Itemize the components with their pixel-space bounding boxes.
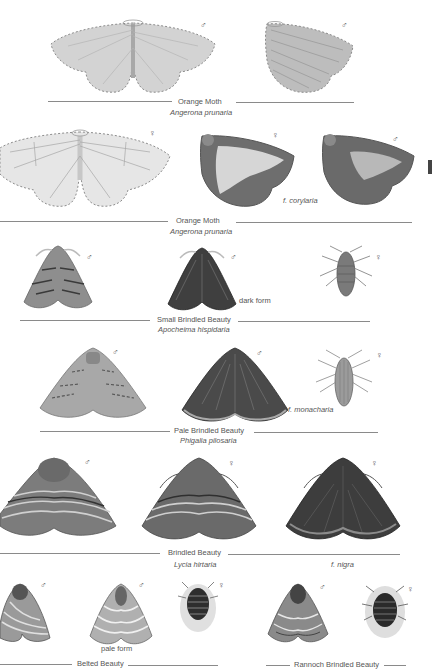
caption-rule-left xyxy=(0,221,168,222)
species-scientific-name: Phigalia pilosaria xyxy=(180,436,237,445)
rannoch-brindled-beauty-female-illustration xyxy=(360,584,410,640)
small-brindled-beauty-female-illustration xyxy=(318,246,374,304)
caption-rule-left xyxy=(266,665,290,666)
caption-rule-left xyxy=(40,431,170,432)
rannoch-brindled-female-sex-symbol: ♀ xyxy=(407,584,414,594)
pale-brindled-beauty-male-illustration xyxy=(38,346,148,422)
brindled-beauty-male-sex-symbol: ♂ xyxy=(84,457,91,467)
form-label-pale-form: pale form xyxy=(101,644,132,653)
species-common-name: Orange Moth xyxy=(176,216,220,225)
orange-moth-corylaria-female-sex-symbol: ♀ xyxy=(272,130,279,140)
small-brindled-beauty-male-illustration xyxy=(22,244,94,312)
brindled-beauty-nigra-illustration xyxy=(284,456,402,542)
caption-rule-right xyxy=(228,554,400,555)
belted-beauty-female-sex-symbol: ♀ xyxy=(218,580,225,590)
form-label-nigra: f. nigra xyxy=(331,560,354,569)
small-brindled-male-sex-symbol: ♂ xyxy=(86,252,93,262)
form-label-text: f. corylaria xyxy=(283,196,318,205)
brindled-beauty-female-illustration xyxy=(140,456,258,542)
belted-beauty-male-sex-symbol: ♂ xyxy=(40,580,47,590)
orange-moth-male-side-illustration xyxy=(263,20,355,94)
form-label-text: f. nigra xyxy=(331,560,354,569)
species-common-name: Rannoch Brindled Beauty xyxy=(294,660,379,669)
orange-moth-female-spread-illustration xyxy=(0,128,172,208)
species-scientific-name: Angerona prunaria xyxy=(170,227,232,236)
belted-beauty-pale-sex-symbol: ♂ xyxy=(138,580,145,590)
small-brindled-female-sex-symbol: ♀ xyxy=(375,252,382,262)
species-common-name: Small Brindled Beauty xyxy=(157,315,231,324)
page-edge-tab xyxy=(428,160,432,174)
rannoch-brindled-male-sex-symbol: ♂ xyxy=(319,582,326,592)
belted-beauty-male-illustration xyxy=(0,582,52,644)
orange-moth-male-spread-illustration xyxy=(48,18,218,94)
small-brindled-beauty-dark-illustration xyxy=(166,246,238,314)
caption-rule-right xyxy=(128,665,218,666)
species-scientific-name: Lycia hirtaria xyxy=(174,560,216,569)
brindled-beauty-nigra-sex-symbol: ♀ xyxy=(371,458,378,468)
caption-rule-left xyxy=(0,553,160,554)
pale-brindled-beauty-female-illustration xyxy=(314,348,374,412)
caption-rule-right xyxy=(384,665,406,666)
pale-brindled-beauty-monacharia-illustration xyxy=(180,346,290,426)
caption-rule-left xyxy=(20,320,150,321)
form-label-corylaria: f. corylaria xyxy=(283,196,318,205)
caption-rule-right xyxy=(254,432,378,433)
small-brindled-dark-sex-symbol: ♂ xyxy=(230,252,237,262)
pale-brindled-female-sex-symbol: ♀ xyxy=(376,350,383,360)
orange-moth-male-corylaria-illustration xyxy=(320,132,416,210)
caption-rule-left xyxy=(0,664,72,665)
species-common-name: Orange Moth xyxy=(178,97,222,106)
orange-moth-female-corylaria-illustration xyxy=(198,132,296,212)
brindled-beauty-female-sex-symbol: ♀ xyxy=(228,458,235,468)
orange-moth-male-side-sex-symbol: ♂ xyxy=(341,20,348,30)
species-common-name: Brindled Beauty xyxy=(168,548,221,557)
caption-rule-right xyxy=(236,222,412,223)
caption-rule-right xyxy=(236,102,354,103)
orange-moth-corylaria-male-sex-symbol: ♂ xyxy=(392,134,399,144)
belted-beauty-pale-illustration xyxy=(88,582,154,646)
species-common-name: Pale Brindled Beauty xyxy=(174,426,244,435)
pale-brindled-male-sex-symbol: ♂ xyxy=(112,347,119,357)
belted-beauty-female-illustration xyxy=(176,582,220,634)
form-label-dark-form: dark form xyxy=(239,296,271,305)
species-scientific-name: Angerona prunaria xyxy=(170,108,232,117)
caption-rule-left xyxy=(48,101,172,102)
species-common-name: Belted Beauty xyxy=(77,659,124,668)
orange-moth-female-sex-symbol: ♀ xyxy=(149,128,156,138)
brindled-beauty-male-illustration xyxy=(0,456,118,536)
species-scientific-name: Apocheima hispidaria xyxy=(158,325,230,334)
caption-rule-right xyxy=(238,321,370,322)
orange-moth-male-sex-symbol: ♂ xyxy=(200,20,207,30)
pale-brindled-monacharia-sex-symbol: ♂ xyxy=(256,348,263,358)
